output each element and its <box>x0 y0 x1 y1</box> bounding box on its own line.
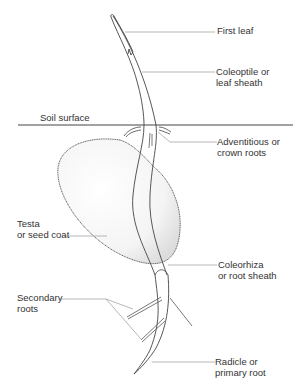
seed-testa <box>58 139 180 264</box>
label-radicle-line2: primary root <box>215 367 266 378</box>
adventitious-root-mid <box>149 133 152 148</box>
label-coleorhiza: Coleorhiza or root sheath <box>218 259 277 281</box>
adventitious-root-right <box>159 127 171 134</box>
coleorhiza <box>155 270 168 275</box>
coleoptile <box>111 17 144 125</box>
label-soil-surface: Soil surface <box>40 112 90 123</box>
label-testa-line2: or seed coat <box>17 229 69 240</box>
label-testa-line1: Testa <box>17 218 69 229</box>
label-testa: Testa or seed coat <box>17 218 69 240</box>
label-coleoptile: Coleoptile or leaf sheath <box>216 66 269 88</box>
label-adventitious-roots: Adventitious or crown roots <box>217 136 280 158</box>
secondary-root-1 <box>127 297 162 319</box>
radicle <box>134 275 169 374</box>
label-first-leaf: First leaf <box>217 25 253 36</box>
label-secondary-line2: roots <box>17 303 62 314</box>
diagram-drawing <box>0 0 305 392</box>
label-coleoptile-line2: leaf sheath <box>216 77 269 88</box>
label-coleorhiza-line2: or root sheath <box>218 270 277 281</box>
label-coleoptile-line1: Coleoptile or <box>216 66 269 77</box>
first-leaf <box>111 15 133 55</box>
seedling-diagram: First leaf Coleoptile or leaf sheath Soi… <box>0 0 305 392</box>
label-coleorhiza-line1: Coleorhiza <box>218 259 277 270</box>
label-radicle-line1: Radicle or <box>215 356 266 367</box>
label-secondary-line1: Secondary <box>17 292 62 303</box>
adventitious-root-left <box>124 127 141 137</box>
secondary-root-2 <box>141 318 165 342</box>
label-radicle: Radicle or primary root <box>215 356 266 378</box>
secondary-root-3 <box>170 298 192 326</box>
label-adventitious-line1: Adventitious or <box>217 136 280 147</box>
label-adventitious-line2: crown roots <box>217 147 280 158</box>
label-secondary-roots: Secondary roots <box>17 292 62 314</box>
